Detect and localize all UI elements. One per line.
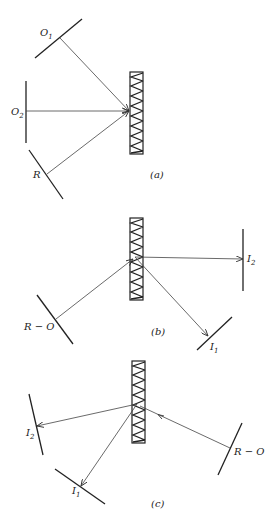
ray-r-minus-o [140,406,230,448]
label-i2: I2 [246,253,256,267]
hologram-grating [132,361,145,443]
ray-i2 [37,404,137,426]
ray-r [47,111,129,174]
ray-i1 [81,404,137,486]
label-r: R [32,169,41,180]
caption-a: (a) [150,169,164,180]
panel-b: R − O I2 I1 (b) [23,218,256,355]
label-r-minus-o: R − O [23,321,54,332]
ray-i1 [135,257,208,336]
label-r-minus-o: R − O [233,446,264,457]
object-plane-o1 [35,19,82,58]
label-i2: I2 [25,427,35,441]
hologram-diagram: O1 O2 R (a) R − O I2 I1 (b) I2 I1 R − O … [0,0,276,526]
label-o2: O2 [11,106,24,120]
ray-i2 [135,257,243,259]
caption-c: (c) [151,498,165,509]
label-o1: O1 [40,27,53,41]
reconstruction-plane-r-minus-o [37,295,73,344]
panel-a: O1 O2 R (a) [11,19,164,199]
caption-b: (b) [151,326,165,337]
image-plane-i1 [197,317,232,350]
label-i1: I1 [71,485,80,499]
label-i1: I1 [209,341,218,355]
image-plane-i2 [29,394,43,455]
ray-o1 [60,38,129,111]
hologram-grating [130,72,143,154]
ray-r-minus-o [56,259,133,319]
panel-c: I2 I1 R − O (c) [25,361,264,509]
